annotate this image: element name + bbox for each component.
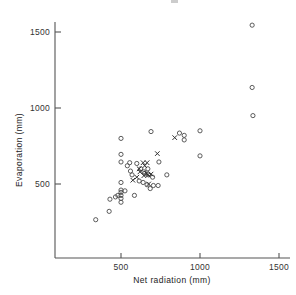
y-tick-label: 1000 <box>30 103 50 113</box>
x-tick-label: 1000 <box>190 262 210 272</box>
plot-background <box>0 0 296 295</box>
y-tick-label: 500 <box>35 179 50 189</box>
x-tick-label: 500 <box>113 262 128 272</box>
x-axis-title: Net radiation (mm) <box>133 275 211 285</box>
x-tick-label: 1500 <box>269 262 289 272</box>
plot-canvas: 50010001500 50010001500 Net radiation (m… <box>0 0 296 295</box>
scatter-plot-figure: 50010001500 50010001500 Net radiation (m… <box>0 0 296 295</box>
y-axis-title: Evaporation (mm) <box>14 113 24 187</box>
y-tick-label: 1500 <box>30 27 50 37</box>
clipped-title-artifact <box>171 0 178 3</box>
